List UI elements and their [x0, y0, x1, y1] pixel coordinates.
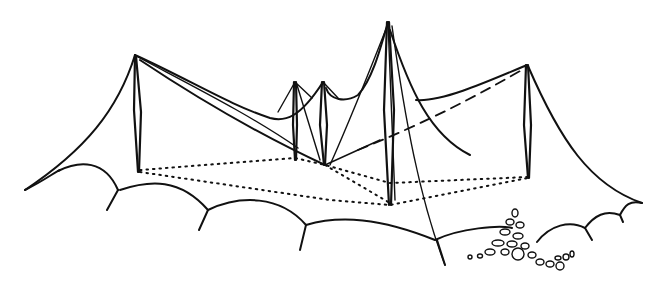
right-mast: [524, 65, 531, 178]
right-membrane-edge: [528, 66, 642, 203]
left-mast: [134, 55, 141, 172]
footprint-dotted-mid: [325, 165, 390, 203]
central-tall-mast: [384, 22, 395, 205]
center-lower-cable: [325, 140, 380, 165]
small-mast-1-stay-right: [295, 82, 312, 98]
ground-far-left: [25, 170, 60, 190]
ground-scallops: [58, 164, 642, 242]
tent-drawing: [0, 0, 655, 289]
tall-mast-long-stay: [392, 26, 445, 265]
tent-sketch: Line drawing of a tensile tent / membran…: [0, 0, 655, 289]
center-valley-edge: [326, 22, 388, 99]
small-mast-1: [293, 82, 297, 160]
left-ridge-cable-2: [138, 57, 298, 148]
right-ridge-cable: [416, 65, 527, 100]
small-mast-2: [320, 82, 327, 165]
ground-scallop-ticks: [107, 190, 623, 265]
left-membrane-edge: [25, 55, 135, 190]
footprint-dotted-back: [140, 158, 528, 183]
rock-pile: [468, 209, 574, 270]
small-mast-1-stay-down: [297, 85, 320, 160]
